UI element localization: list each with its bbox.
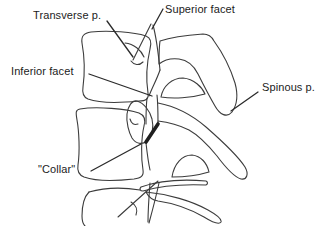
leader-lines xyxy=(89,9,258,171)
collar-leader-line xyxy=(91,144,141,171)
label-spinous-process: Spinous p. xyxy=(262,81,315,93)
vertebrae-diagram: Transverse p. Superior facet Inferior fa… xyxy=(0,0,325,226)
vertebrae-outlines xyxy=(76,24,247,226)
label-transverse-process: Transverse p. xyxy=(33,9,101,21)
label-collar: "Collar" xyxy=(38,163,75,175)
middle-spinous-process xyxy=(158,103,247,179)
lower-body-left-edge xyxy=(82,192,89,226)
upper-transverse-arc xyxy=(131,61,143,65)
lower-body-top-edge xyxy=(89,188,140,192)
lower-articular-dome xyxy=(172,155,209,177)
label-inferior-facet: Inferior facet xyxy=(11,65,74,77)
label-superior-facet: Superior facet xyxy=(165,3,235,15)
lower-spinous-process xyxy=(146,192,221,223)
upper-inferior-process-edge xyxy=(149,70,160,96)
spinous-leader-line xyxy=(231,92,258,111)
facet-column-lower-line xyxy=(146,143,150,170)
vertebrae-illustration xyxy=(0,0,325,226)
facet-joint-right-line xyxy=(157,95,158,123)
facet-joint-left-line xyxy=(146,98,147,124)
middle-lamina-dome xyxy=(161,78,205,98)
upper-spinous-process xyxy=(159,34,237,115)
superior-leader-line xyxy=(152,9,163,29)
middle-articular-curl xyxy=(130,119,138,124)
middle-vertebral-body xyxy=(76,108,145,181)
inferior-leader-line xyxy=(89,74,152,96)
collar-mark xyxy=(146,124,158,142)
transverse-leader-line xyxy=(107,21,133,57)
